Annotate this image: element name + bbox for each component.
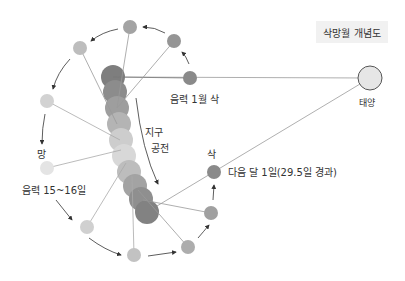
earth-icon <box>135 200 159 224</box>
sun-icon <box>358 66 382 90</box>
moon-icon-moon-4 <box>73 41 87 55</box>
moon-icon-full-moon <box>40 161 54 175</box>
earth-orbit-label-line2: 공전 <box>151 140 169 155</box>
moon-icon-moon-2 <box>167 34 181 48</box>
moon-icon-moon-5 <box>40 94 54 108</box>
full-moon-label: 망 <box>37 146 46 161</box>
sun-label: 태양 <box>359 96 375 109</box>
next-new-moon-label: 삭 <box>207 146 216 161</box>
moon-icon-moon-9 <box>181 240 195 254</box>
moon-icon-moon-3 <box>123 20 137 34</box>
next-new-moon-date-label: 다음 달 1일(29.5일 경과) <box>228 164 337 179</box>
moon-icon-next-new-moon <box>207 165 221 179</box>
earth-orbit-label-line1: 지구 <box>145 124 163 139</box>
moon-icon-moon-10 <box>204 206 218 220</box>
moon-icon-moon-7 <box>80 220 94 234</box>
full-moon-date-label: 음력 15~16일 <box>22 182 86 197</box>
moon-icon-new-moon-month1 <box>183 71 197 85</box>
new-moon-month1-label: 음력 1월 삭 <box>170 91 219 106</box>
moon-icon-moon-8 <box>127 248 141 262</box>
diagram-title: 삭망월 개념도 <box>316 21 388 43</box>
